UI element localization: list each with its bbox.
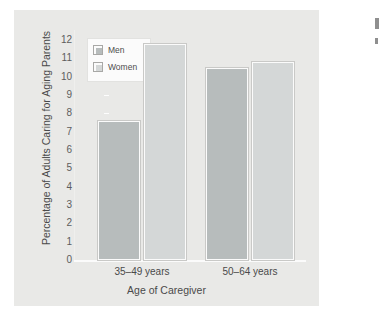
bar-men-group-0 <box>98 121 140 260</box>
y-tick-label-11: 11 <box>50 53 72 63</box>
y-tick-label-8: 8 <box>50 108 72 118</box>
y-tick-label-10: 10 <box>50 72 72 82</box>
legend-item-men: Men <box>93 43 125 57</box>
x-axis-line <box>74 260 306 262</box>
legend-swatch-women-icon <box>93 62 103 72</box>
legend-swatch-men-icon <box>93 45 103 55</box>
y-tick-label-1: 1 <box>50 237 72 247</box>
cropped-edge-mark-lower <box>375 38 378 44</box>
legend-item-women: Women <box>93 60 137 74</box>
y-tick-label-4: 4 <box>50 182 72 192</box>
y-tick-label-0: 0 <box>50 255 72 265</box>
y-tick-label-6: 6 <box>50 145 72 155</box>
y-tick-label-2: 2 <box>50 218 72 228</box>
legend-label-men: Men <box>108 45 125 55</box>
y-tick-label-12: 12 <box>50 35 72 45</box>
y-tick-label-3: 3 <box>50 200 72 210</box>
cropped-edge-mark-upper <box>375 18 379 29</box>
bar-men-group-1 <box>206 68 248 261</box>
bar-women-group-0 <box>144 44 186 260</box>
y-tick-label-5: 5 <box>50 163 72 173</box>
x-tick-label-0: 35–49 years <box>92 266 192 277</box>
bar-women-group-1 <box>252 62 294 260</box>
x-tick-label-1: 50–64 years <box>200 266 300 277</box>
chart-figure: Percentage of Adults Caring for Aging Pa… <box>14 10 319 306</box>
chart-legend: Men Women <box>87 38 151 82</box>
y-axis-line <box>74 30 75 262</box>
legend-label-women: Women <box>108 62 137 72</box>
y-axis-ticks: 1211109876543210 <box>44 10 72 306</box>
y-tick-label-7: 7 <box>50 127 72 137</box>
y-tick-label-9: 9 <box>50 90 72 100</box>
x-axis-title: Age of Caregiver <box>14 284 319 296</box>
